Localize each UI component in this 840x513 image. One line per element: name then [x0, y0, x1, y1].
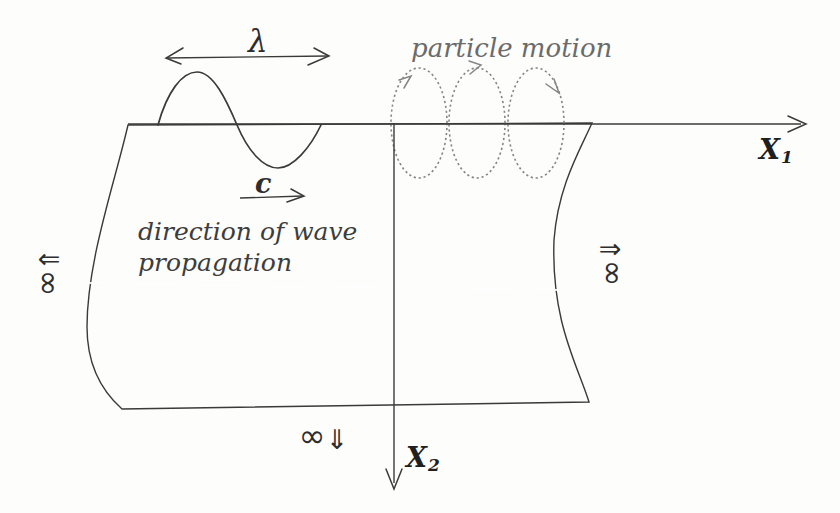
velocity-arrow-line [240, 196, 303, 198]
direction-label-line1: direction of wave [138, 217, 357, 246]
rayleigh-wave-diagram: λ c particle motion direction of wave pr… [0, 0, 840, 513]
x2-axis-subscript: 2 [427, 455, 440, 475]
diagram-canvas: λ c particle motion direction of wave pr… [0, 0, 840, 513]
infinity-bottom-symbol: ∞ [299, 417, 326, 455]
wavelength-label: λ [246, 23, 268, 59]
wavelength-dimension-line [166, 56, 328, 58]
orbit-arrow-3-icon [546, 79, 559, 93]
x2-axis-label: X [404, 442, 428, 473]
x1-axis-subscript: 1 [781, 147, 793, 167]
infinity-right-symbol: ∞ [594, 260, 632, 287]
infinity-bottom-arrow-icon: ⇓ [326, 424, 349, 455]
x1-axis-label: X [757, 134, 781, 165]
scan-artifact-line [88, 283, 558, 290]
infinity-left-symbol: ∞ [30, 270, 68, 297]
direction-label-line2: propagation [138, 248, 292, 277]
velocity-label: c [255, 168, 271, 199]
surface-wave-curve [158, 72, 321, 168]
wavelength-left-arrowhead-icon [166, 48, 183, 64]
particle-motion-label: particle motion [411, 33, 612, 63]
